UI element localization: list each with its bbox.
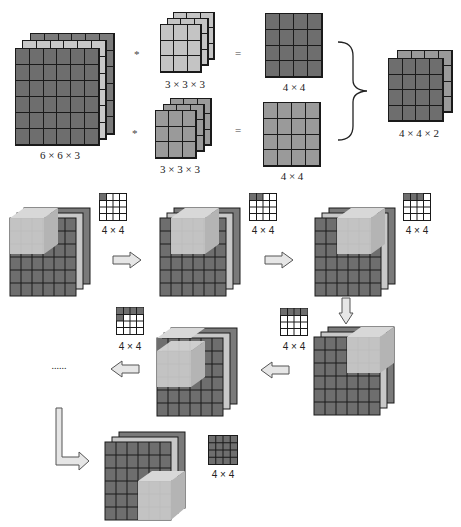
step-4-volume [314, 327, 396, 419]
step-2-output-label: 4 × 4 [248, 225, 278, 236]
arrow-right-icon [112, 252, 142, 268]
equals-operator-1: = [235, 47, 241, 59]
step-6-volume [105, 432, 187, 524]
step-4-output-label: 4 × 4 [279, 341, 309, 352]
step-4-output-grid [280, 308, 308, 336]
step-3-output-grid [403, 193, 431, 221]
step-5-volume [157, 328, 239, 420]
equals-operator-2: = [235, 124, 241, 136]
arrow-down-right-icon [55, 407, 95, 471]
filter-2-layer-front [155, 110, 197, 159]
curly-brace-icon [335, 40, 375, 142]
step-1-volume [10, 208, 92, 300]
ellipsis: ...... [44, 360, 74, 371]
step-6-output-grid [208, 435, 238, 465]
filter-1-layer-front [160, 24, 202, 73]
filter-2-label: 3 × 3 × 3 [150, 163, 210, 175]
output-2-label: 4 × 4 [262, 170, 322, 182]
arrow-right-icon [264, 252, 294, 268]
step-1-output-grid [99, 193, 127, 221]
stacked-output-label: 4 × 4 × 2 [388, 127, 450, 139]
stacked-output-layer-front [388, 58, 444, 122]
step-3-output-label: 4 × 4 [402, 225, 432, 236]
arrow-left-icon [110, 361, 140, 377]
step-2-output-grid [249, 193, 277, 221]
convolution-operator-2: * [132, 127, 138, 139]
step-1-output-label: 4 × 4 [98, 225, 128, 236]
convolution-operator-1: * [134, 48, 140, 60]
arrow-left-icon [260, 362, 290, 378]
step-2-volume [160, 208, 242, 300]
step-5-output-label: 4 × 4 [115, 341, 145, 352]
output-2-grid [263, 102, 321, 167]
step-6-output-label: 4 × 4 [208, 469, 238, 480]
input-layer-front [15, 48, 100, 146]
step-3-volume [315, 208, 397, 300]
filter-1-label: 3 × 3 × 3 [155, 78, 215, 90]
arrow-down-icon [338, 297, 354, 325]
output-1-grid [265, 13, 323, 78]
input-volume-label: 6 × 6 × 3 [30, 149, 90, 161]
step-5-output-grid [116, 307, 144, 335]
output-1-label: 4 × 4 [264, 81, 324, 93]
